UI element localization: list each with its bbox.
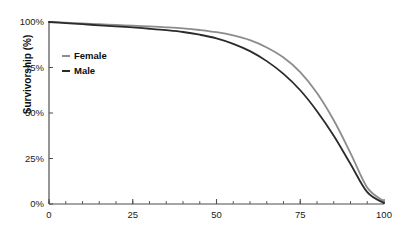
legend-item-male: Male <box>62 63 107 78</box>
y-tick-label: 0% <box>1 198 44 209</box>
legend-item-female: Female <box>62 48 107 63</box>
x-tick-label: 25 <box>113 209 153 220</box>
x-tick-label: 100 <box>364 209 403 220</box>
chart-legend: Female Male <box>62 48 107 78</box>
legend-line-swatch-female <box>62 55 70 57</box>
legend-label-male: Male <box>74 65 95 76</box>
survivorship-chart: 0%25%50%75%100% 0255075100 Survivorship … <box>0 0 403 229</box>
x-tick-label: 50 <box>197 209 237 220</box>
x-tick-label: 75 <box>280 209 320 220</box>
legend-line-swatch-male <box>62 70 70 72</box>
legend-label-female: Female <box>74 50 107 61</box>
x-tick-label: 0 <box>29 209 69 220</box>
y-axis-title: Survivorship (%) <box>22 15 33 135</box>
y-tick-label: 25% <box>1 153 44 164</box>
plot-canvas <box>0 0 403 229</box>
